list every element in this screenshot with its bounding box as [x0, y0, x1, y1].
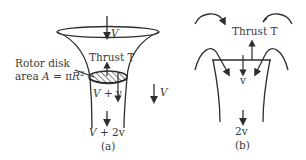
wake-left-wall [213, 60, 220, 122]
caption-a: (a) [101, 140, 115, 152]
recirculation-arc-right-icon [263, 14, 292, 24]
disk-velocity-label-b: v [239, 74, 246, 86]
wake-right-wall [263, 60, 270, 122]
recirculation-flow-right-icon [256, 49, 288, 73]
rotor-disk-label-line1: Rotor disk [15, 57, 71, 69]
freestream-velocity-label: V [160, 86, 169, 98]
rotor-disk-label-line2: area A = πR2 [15, 70, 84, 82]
streamtube-right-wall [124, 32, 159, 128]
caption-b: (b) [235, 139, 250, 151]
wake-velocity-label-a: V + 2v [89, 126, 125, 138]
rotor-momentum-theory-figure: V Thrust T Rotor disk area A = πR2 V + v… [0, 0, 306, 160]
panel-a: V Thrust T Rotor disk area A = πR2 V + v… [15, 16, 169, 152]
panel-b: Thrust T v 2v (b) [195, 14, 292, 151]
thrust-label-a: Thrust T [89, 51, 135, 63]
disk-velocity-label-a: V + v [93, 87, 122, 99]
thrust-label-b: Thrust T [232, 25, 278, 37]
wake-velocity-label-b: 2v [235, 125, 248, 137]
recirculation-flow-left-icon [195, 49, 228, 73]
streamtube-inlet-ellipse [57, 27, 159, 38]
recirculation-arc-left-icon [195, 14, 224, 24]
